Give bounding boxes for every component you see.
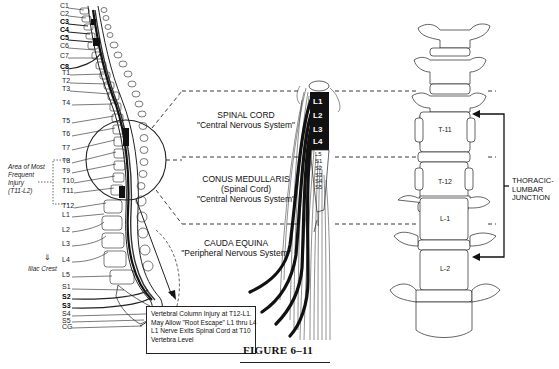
vertebra-label-s1: S1	[62, 283, 71, 291]
callout-line: L1 Nerve Exits Spinal Cord at T10	[151, 327, 251, 336]
vertebra-label-t7: T7	[62, 144, 70, 152]
thoracic-lumbar-junction-label: THORACIC- LUMBAR JUNCTION	[512, 177, 554, 203]
vertebra-label-t8: T8	[62, 157, 70, 165]
vertebra-label-l2: L2	[62, 226, 70, 234]
cord-label-l1: L1	[313, 97, 322, 106]
spinal-cord-subtitle: "Central Nervous System"	[196, 120, 296, 130]
vertebra-label-c1: C1	[60, 2, 69, 10]
cord-label-s5: S5	[315, 184, 322, 191]
conus-title: CONUS MEDULLARIS	[196, 174, 296, 184]
vertebra-label-t3: T3	[62, 85, 70, 93]
caption-rule	[240, 362, 330, 363]
cord-label-l4: L4	[313, 137, 322, 146]
region-conus-medullaris: CONUS MEDULLARIS (Spinal Cord) "Central …	[196, 174, 296, 204]
callout-line: Vertebral Column Injury at T12-L1.	[151, 310, 251, 319]
cord-label-s2: S2	[315, 165, 322, 172]
injury-area-note: Area of Most Frequent Injury (T11-L2)	[8, 163, 45, 195]
vertebra-label-l1: L1	[62, 211, 70, 219]
injury-area-line3: Injury	[8, 179, 45, 187]
vertebra-label-c4: C4	[60, 26, 69, 34]
cauda-subtitle: "Peripheral Nervous System"	[176, 248, 296, 258]
vertebra-label-t10: T10	[62, 177, 74, 185]
vertebra-label-l2: L-2	[430, 265, 460, 272]
conus-subtitle2: "Central Nervous System"	[196, 194, 296, 204]
vertebra-label-t5: T5	[62, 117, 70, 125]
vertebra-label-cg: CG	[62, 323, 73, 331]
injury-area-line1: Area of Most	[8, 163, 45, 171]
vertebra-label-l1: L-1	[430, 215, 460, 222]
vertebra-label-s3: S3	[62, 302, 71, 310]
cord-label-l2: L2	[313, 111, 322, 120]
iliac-crest-label: Iliac Crest	[28, 265, 57, 273]
vertebra-label-t4: T4	[62, 99, 70, 107]
cord-label-s1: S1	[315, 158, 322, 165]
figure-caption: FIGURE 6–11	[228, 344, 328, 356]
region-spinal-cord: SPINAL CORD "Central Nervous System"	[196, 110, 296, 130]
pin-icon: ⇓	[44, 254, 51, 262]
spinal-cord-title: SPINAL CORD	[196, 110, 296, 120]
vertebra-label-c5: C5	[60, 34, 69, 42]
cord-label-l3: L3	[313, 125, 322, 134]
vertebra-label-t1: T1	[62, 69, 70, 77]
cord-label-l5: L5	[315, 151, 322, 158]
vertebra-label-t11: T11	[62, 187, 74, 195]
vertebra-label-c7: C7	[60, 52, 69, 60]
vertebra-label-t11: T-11	[430, 126, 460, 133]
vertebra-label-c3: C3	[60, 18, 69, 26]
vertebra-label-t6: T6	[62, 130, 70, 138]
callout-line: Vertebra Level	[151, 336, 251, 345]
vertebra-label-s2: S2	[62, 293, 71, 301]
vertebra-label-t9: T9	[62, 167, 70, 175]
vertebra-label-c2: C2	[60, 10, 69, 18]
vertebra-label-c6: C6	[60, 42, 69, 50]
conus-subtitle: (Spinal Cord)	[196, 184, 296, 194]
cauda-title: CAUDA EQUINA	[176, 238, 296, 248]
vertebra-label-l4: L4	[62, 256, 70, 264]
region-cauda-equina: CAUDA EQUINA "Peripheral Nervous System"	[176, 238, 296, 258]
callout-line: May Allow "Root Escape" L1 thru L4	[151, 319, 251, 328]
injury-area-line4: (T11-L2)	[8, 187, 45, 195]
vertebra-label-t12: T12	[62, 202, 74, 210]
vertebra-label-l3: L3	[62, 240, 70, 248]
injury-area-line2: Frequent	[8, 171, 45, 179]
vertebra-label-l5: L5	[62, 271, 70, 279]
junction-line3: JUNCTION	[512, 194, 554, 203]
vertebra-label-t2: T2	[62, 77, 70, 85]
figure-canvas: C1C2C3C4C5C6C7C8T1T2T3T4T5T6T7T8T9T10T11…	[0, 0, 559, 369]
vertebra-label-t12: T-12	[430, 178, 460, 185]
